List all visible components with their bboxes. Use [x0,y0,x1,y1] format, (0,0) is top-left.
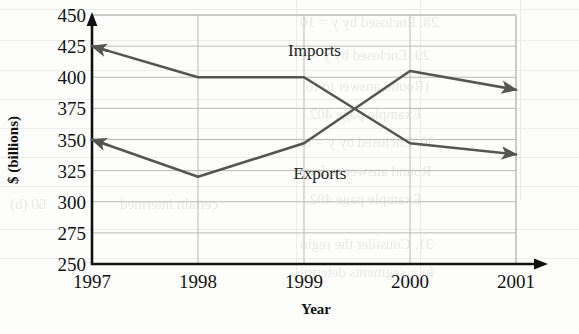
series-start-arrow-imports [92,46,107,51]
x-axis-tick-labels: 19971998199920002001 [73,271,535,292]
y-tick-label: 325 [58,161,87,182]
x-tick-label: 1998 [179,271,217,292]
x-tick-label: 2000 [391,271,429,292]
y-tick-label: 400 [58,67,87,88]
y-axis-tick-labels: 450425400375350325300275250 [58,5,87,275]
series-annotations: ImportsExports [288,41,346,183]
y-tick-label: 300 [58,192,87,213]
series-start-arrow-exports [92,140,107,145]
chart-svg: 450425400375350325300275250 199719981999… [0,0,579,334]
y-axis-title: $ (billions) [5,116,22,184]
series-label: Exports [293,164,346,183]
x-tick-label: 2001 [497,271,535,292]
x-tick-label: 1997 [73,271,111,292]
series-label: Imports [288,41,341,60]
x-tick-label: 1999 [285,271,323,292]
y-axis-arrowhead [87,12,98,26]
x-axis-title: Year [301,301,331,317]
y-tick-label: 375 [58,98,87,119]
x-axis-arrowhead [534,259,548,270]
line-chart: 450425400375350325300275250 199719981999… [0,0,579,334]
y-tick-label: 350 [58,130,87,151]
y-tick-label: 275 [58,223,87,244]
y-tick-label: 450 [58,5,87,26]
y-tick-label: 425 [58,36,87,57]
